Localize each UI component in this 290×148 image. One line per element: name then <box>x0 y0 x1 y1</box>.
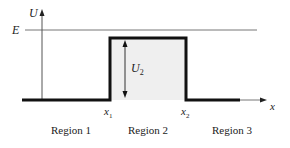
y-axis-arrow-icon <box>40 9 45 16</box>
energy-label: E <box>11 23 20 37</box>
barrier-region <box>110 38 186 100</box>
x1-label: x1 <box>103 105 113 120</box>
potential-barrier-diagram: U E U2 x1 x2 x Region 1 Region 2 Region … <box>0 0 290 148</box>
region-2-label: Region 2 <box>128 124 168 136</box>
x-axis-arrow-icon <box>260 98 267 103</box>
x2-label: x2 <box>180 105 190 120</box>
y-axis-label: U <box>29 6 39 20</box>
region-3-label: Region 3 <box>212 124 253 136</box>
x-axis-label: x <box>269 100 275 112</box>
region-1-label: Region 1 <box>51 124 91 136</box>
